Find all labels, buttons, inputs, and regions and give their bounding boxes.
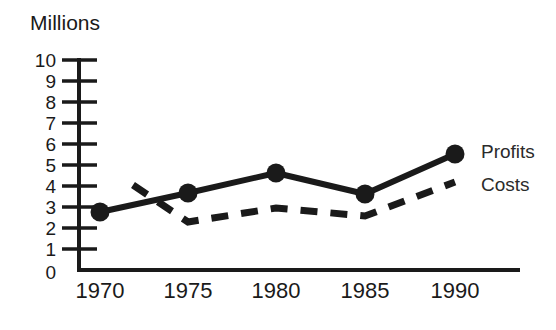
x-tick-label-1990: 1990 — [431, 278, 480, 303]
y-tick-label-1: 1 — [45, 239, 56, 260]
y-tick-label-0: 0 — [45, 262, 56, 283]
y-axis-title: Millions — [30, 11, 100, 34]
x-tick-label-1980: 1980 — [252, 278, 301, 303]
y-tick-label-10: 10 — [35, 50, 56, 71]
x-tick-label-1970: 1970 — [76, 278, 125, 303]
data-point-profits-1990 — [446, 145, 465, 164]
y-tick-label-9: 9 — [45, 71, 56, 92]
y-tick-label-4: 4 — [45, 176, 56, 197]
legend-label-costs: Costs — [481, 174, 530, 195]
legend-label-profits: Profits — [481, 141, 535, 162]
y-tick-label-2: 2 — [45, 218, 56, 239]
data-point-profits-1970 — [91, 203, 110, 222]
data-point-profits-1980 — [267, 164, 286, 183]
y-tick-label-8: 8 — [45, 92, 56, 113]
y-tick-label-5: 5 — [45, 155, 56, 176]
line-chart: Millions 10 9 8 7 6 5 4 3 2 1 0 1970 — [0, 0, 556, 330]
x-tick-label-1975: 1975 — [164, 278, 213, 303]
x-tick-label-1985: 1985 — [341, 278, 390, 303]
y-tick-label-7: 7 — [45, 113, 56, 134]
data-point-profits-1985 — [356, 185, 375, 204]
y-tick-label-3: 3 — [45, 197, 56, 218]
chart-canvas: Millions 10 9 8 7 6 5 4 3 2 1 0 1970 — [0, 0, 556, 330]
data-point-profits-1975 — [179, 184, 198, 203]
y-tick-label-6: 6 — [45, 134, 56, 155]
